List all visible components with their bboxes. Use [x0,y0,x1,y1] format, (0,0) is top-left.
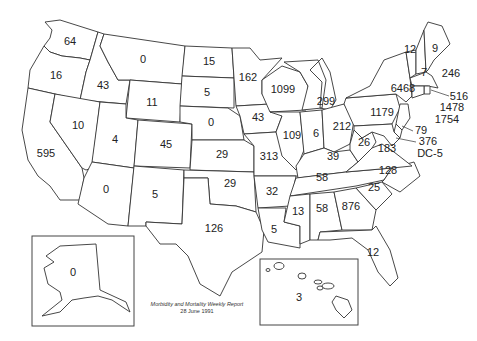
label-mo: 313 [260,150,278,162]
label-ak: 0 [70,266,76,278]
label-sc: 25 [368,181,380,193]
label-ma: 246 [442,67,460,79]
label-ar: 32 [266,185,278,197]
label-az: 0 [103,183,109,195]
label-ut: 4 [112,133,118,145]
state-ny [346,52,412,102]
label-sd: 5 [204,86,210,98]
label-nd: 15 [203,55,215,67]
label-al: 58 [316,202,328,214]
label-mt: 0 [140,53,146,65]
label-wa: 64 [64,35,76,47]
label-ga: 876 [342,200,360,212]
label-ny: 6468 [391,82,415,94]
label-in: 6 [313,127,319,139]
label-dc: DC-5 [417,147,443,159]
label-wv: 26 [358,136,370,148]
label-il: 109 [283,129,301,141]
label-ky: 39 [327,150,339,162]
label-or: 16 [50,69,62,81]
label-ne: 0 [208,116,214,128]
label-nm: 5 [152,188,158,200]
label-la: 5 [271,223,277,235]
label-tx: 126 [205,222,223,234]
label-id: 43 [97,79,109,91]
label-nj: 1754 [435,113,459,125]
label-ca: 595 [37,147,55,159]
label-wy: 11 [146,96,157,108]
label-co: 45 [160,138,172,150]
source-caption: Morbidity and Mortality Weekly Report 28… [138,301,256,314]
label-oh: 212 [333,120,351,132]
label-ms: 13 [292,205,304,217]
label-mn: 162 [239,71,257,83]
state-hi [266,263,352,319]
label-md: 376 [419,135,437,147]
label-me: 9 [432,42,438,54]
us-map: 64 16 595 43 10 0 11 4 0 45 5 15 5 0 29 … [0,0,477,341]
label-va: 183 [378,142,396,154]
label-mi: 299 [317,95,335,107]
label-ks: 29 [216,148,228,160]
label-hi: 3 [296,291,302,303]
state-ri [424,86,430,94]
label-ct: 1478 [440,101,464,113]
label-vt: 12 [404,43,416,55]
label-fl: 12 [367,246,379,258]
label-pa: 1179 [370,106,394,118]
label-ia: 43 [252,111,264,123]
label-tn: 58 [316,171,328,183]
label-wi: 1099 [271,83,295,95]
state-ak [42,244,130,316]
label-ok: 29 [224,177,236,189]
label-nh: 7 [421,66,427,78]
label-nv: 10 [72,119,84,131]
caption-date: 28 June 1991 [138,308,256,315]
caption-title: Morbidity and Mortality Weekly Report [138,301,256,308]
label-nc: 128 [379,164,397,176]
